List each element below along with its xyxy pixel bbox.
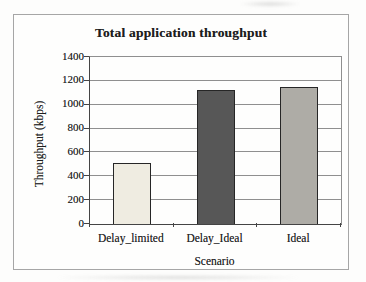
gridline [90,80,341,81]
y-tick-mark [84,80,89,81]
x-category-label: Ideal [243,232,353,244]
bar-Delay_limited [113,163,151,224]
y-tick-mark [84,128,89,129]
x-tick-mark [256,223,257,227]
y-tick-mark [84,175,89,176]
y-tick-mark [84,56,89,57]
y-tick-label: 800 [32,121,84,134]
y-tick-label: 400 [32,169,84,182]
scan-artifact-top [238,1,302,7]
x-tick-mark [89,223,90,227]
y-tick-mark [84,199,89,200]
x-axis-title: Scenario [154,255,275,267]
chart-title: Total application throughput [14,25,348,41]
bar-Delay_Ideal [197,90,235,224]
scan-artifact-bottom [58,275,298,280]
y-tick-label: 1000 [32,97,84,110]
bar-Ideal [280,87,318,224]
y-tick-mark [84,151,89,152]
y-tick-label: 200 [32,193,84,206]
plot-area [89,56,342,225]
y-tick-label: 1200 [32,73,84,86]
x-tick-mark [173,223,174,227]
chart-frame: Total application throughput Throughput … [13,14,349,270]
y-tick-mark [84,104,89,105]
scanned-figure-page: Total application throughput Throughput … [0,0,366,282]
y-tick-label: 1400 [32,50,84,63]
x-tick-mark [340,223,341,227]
y-tick-label: 0 [32,217,84,230]
y-tick-label: 600 [32,145,84,158]
